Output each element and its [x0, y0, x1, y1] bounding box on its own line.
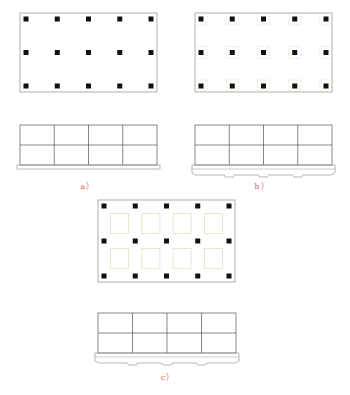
- column-icon: [199, 50, 204, 55]
- column-icon: [195, 274, 200, 279]
- column-icon: [55, 17, 60, 22]
- panel-b: [192, 13, 335, 177]
- column-icon: [227, 204, 232, 209]
- column-icon: [324, 17, 329, 22]
- column-icon: [55, 50, 60, 55]
- column-icon: [24, 50, 29, 55]
- column-icon: [195, 204, 200, 209]
- ribbed-slab-foundation: [192, 165, 335, 177]
- column-icon: [230, 84, 235, 89]
- recess-outline: [142, 249, 160, 269]
- recess-outline: [111, 214, 129, 234]
- column-icon: [133, 274, 138, 279]
- caption-b: b）: [254, 180, 269, 191]
- recess-outline: [173, 214, 191, 234]
- column-icon: [261, 84, 266, 89]
- panel-c: [95, 200, 239, 365]
- elevation-c-ribbed-slab: [95, 313, 239, 365]
- column-icon: [230, 50, 235, 55]
- column-icon: [86, 50, 91, 55]
- column-icon: [133, 204, 138, 209]
- caption-a: a）: [81, 180, 96, 191]
- column-icon: [149, 84, 154, 89]
- column-icon: [195, 239, 200, 244]
- column-icon: [292, 50, 297, 55]
- column-icon: [117, 17, 122, 22]
- panel-a: [17, 13, 160, 169]
- column-icon: [86, 17, 91, 22]
- column-icon: [133, 239, 138, 244]
- column-icon: [149, 50, 154, 55]
- recess-outline: [111, 249, 129, 269]
- column-icon: [102, 274, 107, 279]
- elevation-b-ribbed-slab: [192, 125, 335, 177]
- caption-c: c）: [161, 371, 175, 382]
- foundation-diagram: [0, 0, 350, 395]
- column-icon: [164, 239, 169, 244]
- column-icon: [292, 84, 297, 89]
- column-icon: [86, 84, 91, 89]
- recess-outline: [204, 249, 222, 269]
- plan-b-column-pads: [195, 13, 332, 92]
- column-icon: [324, 84, 329, 89]
- column-icon: [261, 50, 266, 55]
- column-icon: [324, 50, 329, 55]
- column-icon: [199, 17, 204, 22]
- elevation-a-flat-slab: [17, 125, 160, 169]
- column-icon: [164, 274, 169, 279]
- column-icon: [102, 239, 107, 244]
- flat-slab-foundation: [17, 165, 160, 169]
- plan-c-bay-recesses: [98, 200, 235, 282]
- column-icon: [149, 17, 154, 22]
- column-icon: [227, 274, 232, 279]
- column-icon: [292, 17, 297, 22]
- column-icon: [102, 204, 107, 209]
- column-icon: [230, 17, 235, 22]
- column-icon: [117, 84, 122, 89]
- column-icon: [24, 17, 29, 22]
- column-icon: [55, 84, 60, 89]
- recess-outline: [142, 214, 160, 234]
- column-icon: [117, 50, 122, 55]
- recess-outline: [173, 249, 191, 269]
- plan-a-isolated-footings: [20, 13, 157, 92]
- column-icon: [199, 84, 204, 89]
- column-icon: [164, 204, 169, 209]
- column-icon: [227, 239, 232, 244]
- column-icon: [24, 84, 29, 89]
- recess-outline: [204, 214, 222, 234]
- column-icon: [261, 17, 266, 22]
- ribbed-slab-foundation: [95, 353, 239, 365]
